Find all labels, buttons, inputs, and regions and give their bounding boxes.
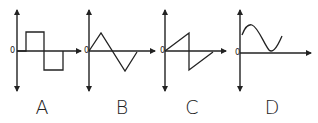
panel-label-d: D	[257, 96, 287, 118]
panel-label-a: A	[27, 96, 57, 118]
panel-c	[165, 10, 226, 91]
triangle-wave	[89, 33, 137, 71]
origin-label-a: 0	[10, 46, 15, 55]
panel-label-c: C	[177, 96, 207, 118]
origin-label-d: 0	[235, 48, 240, 57]
origin-label-b: 0	[84, 46, 89, 55]
panel-label-b: B	[107, 96, 137, 118]
panel-d	[240, 10, 311, 91]
panel-b	[89, 10, 155, 91]
origin-label-c: 0	[160, 46, 165, 55]
panel-a	[17, 10, 81, 91]
sine-wave	[242, 25, 282, 51]
